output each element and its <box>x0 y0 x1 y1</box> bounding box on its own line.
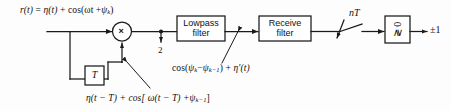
input-signal-equation: r(t) = η(t) + cos(ωt +ψk) <box>20 6 114 16</box>
input-signal-carrier-term: cos(ωt + <box>68 5 101 15</box>
gain-factor-label: 2 <box>158 46 163 55</box>
threshold-level-value: 0 <box>392 22 403 27</box>
lowpass-annotation-noise: η′(t) <box>233 63 249 73</box>
sampler-actuator-line <box>337 20 344 38</box>
input-signal-noise-term: η(t) <box>44 5 58 15</box>
lowpass-filter-label-line2: filter <box>177 29 225 39</box>
lowpass-annotation-close: ) + <box>220 63 231 73</box>
lowpass-annotation-index-b: k−1 <box>209 66 220 73</box>
block-diagram-canvas: r(t) = η(t) + cos(ωt +ψk) × 2 Lowpass fi… <box>0 0 451 111</box>
threshold-detector-label: ≷ 0 <box>385 16 410 43</box>
threshold-compare-symbol: ≷ <box>392 29 403 37</box>
diagram-vector-layer <box>0 0 451 111</box>
lowpass-filter-label: Lowpass filter <box>177 19 225 38</box>
delay-annotation-close: ] <box>207 93 210 103</box>
delay-annotation-noise: η(t − T) + cos[ <box>86 93 145 103</box>
input-signal-plus: + <box>60 5 65 15</box>
sampler-switch-blade <box>340 24 362 32</box>
delay-block-label: T <box>85 70 104 80</box>
input-signal-lhs: r(t) <box>20 5 33 15</box>
lowpass-output-annotation: cos(ψk−ψk−1) + η′(t) <box>172 64 250 74</box>
output-decision-label: ±1 <box>430 25 441 35</box>
input-signal-equals: = <box>36 5 41 15</box>
receive-filter-label-line2: filter <box>259 29 311 39</box>
delay-annotation-index: k−1 <box>196 96 207 103</box>
leader-line-delay-annotation <box>127 62 150 88</box>
input-signal-close-paren: ) <box>110 5 113 15</box>
delay-output-annotation: η(t − T) + cos[ ω(t − T) +ψk−1] <box>86 94 210 104</box>
multiplier-symbol: × <box>119 27 124 36</box>
lowpass-annotation-cos: cos( <box>172 63 188 73</box>
receive-filter-label: Receive filter <box>259 19 311 38</box>
sampler-label: nT <box>349 8 360 18</box>
delay-annotation-carrier: ω(t − T) + <box>148 93 190 103</box>
threshold-detector-text: ≷ 0 <box>392 22 403 38</box>
